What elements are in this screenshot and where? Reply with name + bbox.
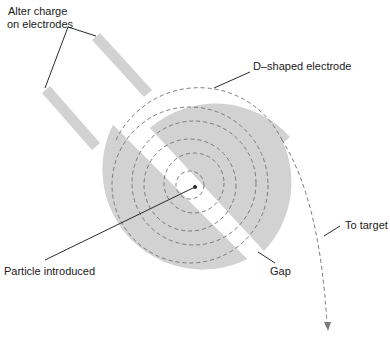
lower-lead-bar (42, 86, 100, 150)
cyclotron-diagram: Alter charge on electrodes D–shaped elec… (0, 0, 390, 353)
gap-label: Gap (270, 265, 291, 277)
particle-introduced-label: Particle introduced (4, 265, 95, 277)
electrode-leads (42, 33, 152, 150)
upper-lead-bar (92, 33, 152, 97)
d-electrode-label: D–shaped electrode (253, 60, 351, 72)
d-electrode-leader (214, 72, 250, 88)
alter-charge-leader (45, 27, 96, 88)
alter-charge-label-line2: on electrodes (7, 18, 74, 30)
alter-charge-label-line1: Alter charge (8, 5, 67, 17)
gap-leader (258, 252, 275, 263)
arrow-head-icon (324, 322, 331, 331)
to-target-leader (324, 226, 340, 236)
to-target-label: To target (345, 219, 388, 231)
